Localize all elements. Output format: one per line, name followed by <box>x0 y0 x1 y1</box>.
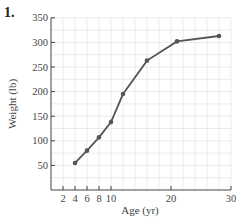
x-tick-label: 6 <box>84 193 89 204</box>
x-tick-label: 4 <box>72 193 78 204</box>
y-tick-label: 100 <box>32 135 48 146</box>
data-point <box>97 135 102 140</box>
x-tick-label: 30 <box>226 193 237 204</box>
y-tick-label: 250 <box>32 62 48 73</box>
x-tick-label: 10 <box>106 193 117 204</box>
y-tick-label: 50 <box>38 160 49 171</box>
x-axis-label: Age (yr) <box>121 204 159 217</box>
data-point <box>217 34 222 39</box>
y-tick-label: 150 <box>32 111 48 122</box>
x-tick-label: 8 <box>96 193 101 204</box>
data-point <box>121 92 126 97</box>
data-point <box>145 58 150 63</box>
x-tick-label: 20 <box>166 193 177 204</box>
x-tick-label: 2 <box>60 193 65 204</box>
y-tick-label: 200 <box>32 86 48 97</box>
data-point <box>109 120 114 125</box>
data-point <box>73 161 78 166</box>
data-point <box>85 148 90 153</box>
y-tick-label: 300 <box>32 37 48 48</box>
y-tick-label: 350 <box>32 12 48 23</box>
y-axis-label: Weight (lb) <box>6 79 19 129</box>
line-chart: 501001502002503003502468102030Age (yr)We… <box>0 0 241 221</box>
data-point <box>175 39 180 44</box>
